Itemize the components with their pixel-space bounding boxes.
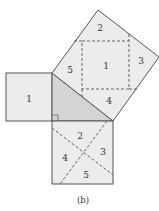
figure-caption: (b) [77, 195, 89, 205]
large-piece-label-center: 1 [103, 61, 109, 71]
bottom-piece-label-bottom: 5 [83, 170, 89, 180]
bottom-piece-label-left: 4 [62, 153, 68, 163]
pythagorean-dissection-diagram: 1 2 1 3 4 5 2 3 4 5 (b) [0, 0, 159, 211]
small-square-label: 1 [26, 94, 32, 104]
bottom-piece-label-right: 3 [100, 147, 106, 157]
large-piece-label-bottom: 4 [106, 96, 112, 106]
large-piece-label-left: 5 [67, 65, 73, 75]
bottom-piece-label-top: 2 [77, 131, 83, 141]
large-piece-label-top: 2 [97, 23, 103, 33]
large-piece-label-right: 3 [138, 56, 144, 66]
